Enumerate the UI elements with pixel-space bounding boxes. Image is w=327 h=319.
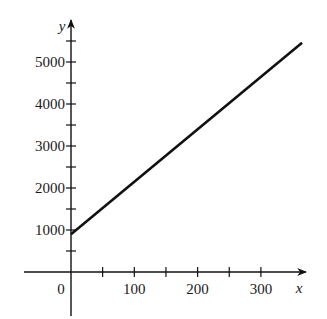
data-series (71, 43, 302, 235)
y-tick-label: 2000 (35, 180, 65, 196)
line-chart: 100200300100020003000400050000xy (0, 0, 327, 319)
data-line (71, 43, 302, 235)
x-tick-label: 200 (186, 281, 209, 297)
axis-labels: 100200300100020003000400050000xy (35, 18, 303, 297)
y-axis-label: y (57, 18, 66, 34)
y-tick-label: 4000 (35, 96, 65, 112)
y-tick-label: 1000 (35, 222, 65, 238)
y-tick-label: 5000 (35, 54, 65, 70)
origin-label: 0 (57, 281, 65, 297)
x-axis-label: x (295, 280, 303, 296)
x-tick-label: 100 (123, 281, 146, 297)
y-tick-label: 3000 (35, 138, 65, 154)
axes (24, 20, 306, 316)
x-tick-label: 300 (250, 281, 273, 297)
